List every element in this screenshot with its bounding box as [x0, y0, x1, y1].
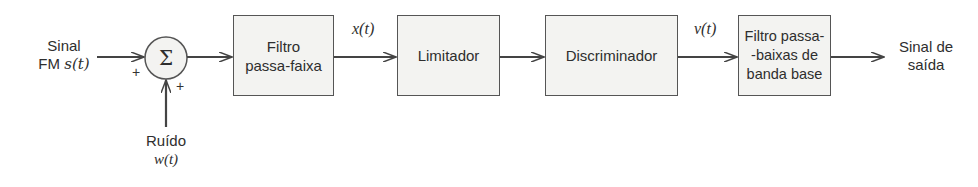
summer-sign-bottom: +: [176, 78, 184, 94]
block-lowpass-filter-line2: -baixas de: [745, 46, 825, 65]
input-label-line1: Sinal: [28, 37, 100, 55]
block-limiter: Limitador: [397, 15, 500, 96]
block-limiter-label: Limitador: [418, 46, 480, 65]
noise-signal-symbol: w(t): [132, 150, 200, 168]
block-discriminator: Discriminador: [545, 15, 678, 96]
block-lowpass-filter-line1: Filtro passa-: [745, 27, 825, 46]
block-bandpass-filter-line1: Filtro: [245, 37, 322, 56]
output-label-line2: saída: [884, 56, 968, 74]
summer-symbol: Σ: [153, 46, 179, 70]
input-label-fm: FM: [38, 55, 64, 72]
signal-v-label: v(t): [694, 20, 716, 38]
signal-x-label: x(t): [352, 20, 374, 38]
input-label: Sinal FM s(t): [28, 37, 100, 73]
block-bandpass-filter-line2: passa-faixa: [245, 56, 322, 75]
block-lowpass-filter: Filtro passa- -baixas de banda base: [738, 15, 831, 96]
output-label: Sinal de saída: [884, 38, 968, 74]
block-discriminator-label: Discriminador: [566, 46, 658, 65]
block-bandpass-filter: Filtro passa-faixa: [233, 15, 334, 96]
input-signal-symbol: s(t): [64, 55, 89, 73]
summer-sign-left: +: [132, 64, 140, 80]
input-label-line2: FM s(t): [28, 55, 100, 73]
noise-label: Ruído w(t): [132, 132, 200, 168]
output-label-line1: Sinal de: [884, 38, 968, 56]
block-lowpass-filter-line3: banda base: [745, 65, 825, 84]
noise-label-line1: Ruído: [132, 132, 200, 150]
